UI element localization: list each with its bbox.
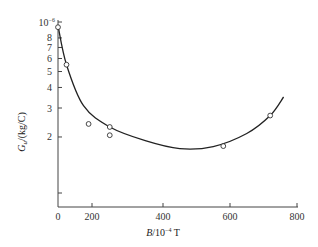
y-tick-label: 10−6 [39, 17, 55, 28]
data-point [64, 62, 69, 67]
x-ticks: 0200400600800 [56, 203, 305, 222]
x-tick-label: 800 [290, 211, 305, 222]
y-tick-label: 2 [47, 131, 52, 142]
fit-curve [58, 26, 284, 149]
x-axis-title: B/10−4 T [146, 227, 180, 238]
x-tick-label: 0 [56, 211, 61, 222]
data-point [107, 133, 112, 138]
data-point [86, 122, 91, 127]
data-point [221, 144, 226, 149]
data-point [107, 125, 112, 130]
x-tick-label: 200 [85, 211, 100, 222]
y-tick-label: 3 [47, 103, 52, 114]
y-tick-label: 8 [47, 32, 52, 43]
y-tick-label: 4 [47, 82, 52, 93]
x-tick-label: 400 [156, 211, 171, 222]
data-points [56, 25, 273, 149]
y-tick-label: 5 [47, 66, 52, 77]
data-point [268, 113, 273, 118]
chart: 234567810−6 0200400600800 Gu/(kg/C) B/10… [0, 0, 318, 247]
y-axis-title: Gu/(kg/C) [16, 112, 29, 152]
y-tick-label: 7 [47, 42, 52, 53]
y-tick-label: 6 [47, 53, 52, 64]
axes [58, 20, 298, 207]
x-tick-label: 600 [223, 211, 238, 222]
data-point [56, 25, 61, 30]
